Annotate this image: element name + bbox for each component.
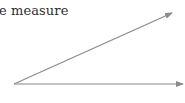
angle-diagram xyxy=(0,0,185,103)
upper-ray xyxy=(14,13,172,84)
